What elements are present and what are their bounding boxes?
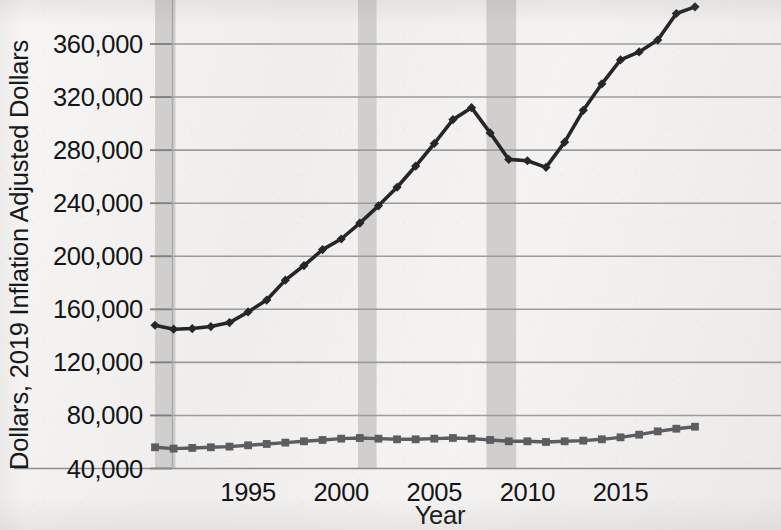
data-point-square — [579, 437, 587, 445]
data-point-diamond — [523, 156, 532, 165]
chart-canvas: 40,00080,000120,000160,000200,000240,000… — [0, 0, 781, 530]
y-tick-labels: 40,00080,000120,000160,000200,000240,000… — [53, 30, 143, 483]
data-point-square — [486, 436, 494, 444]
y-tick-label: 160,000 — [53, 295, 143, 323]
data-point-square — [598, 435, 606, 443]
y-tick-label: 240,000 — [53, 189, 143, 217]
series-upper-series — [150, 2, 699, 334]
data-point-square — [542, 438, 550, 446]
data-point-diamond — [206, 322, 215, 331]
y-tick-label: 360,000 — [53, 30, 143, 58]
data-point-square — [524, 437, 532, 445]
data-point-square — [393, 435, 401, 443]
data-point-square — [188, 444, 196, 452]
data-point-square — [691, 423, 699, 431]
data-point-square — [654, 427, 662, 435]
series-lower-series — [151, 423, 699, 453]
data-point-square — [356, 434, 364, 442]
x-tick-label: 2010 — [500, 478, 556, 506]
x-tick-label: 2015 — [593, 478, 649, 506]
y-axis-title: Dollars, 2019 Inflation Adjusted Dollars — [5, 40, 33, 470]
data-point-square — [319, 436, 327, 444]
data-point-square — [561, 437, 569, 445]
data-point-square — [430, 435, 438, 443]
data-point-diamond — [188, 324, 197, 333]
y-tick-label: 120,000 — [53, 348, 143, 376]
data-point-square — [449, 434, 457, 442]
y-tick-label: 200,000 — [53, 242, 143, 270]
data-point-square — [151, 443, 159, 451]
data-point-square — [281, 439, 289, 447]
recession-2001 — [358, 0, 377, 469]
data-series-layer — [150, 2, 699, 452]
data-point-square — [207, 443, 215, 451]
data-point-square — [337, 435, 345, 443]
x-axis-title: Year — [415, 501, 466, 529]
gridlines — [173, 44, 781, 415]
data-point-square — [617, 433, 625, 441]
x-tick-label: 1995 — [220, 478, 276, 506]
y-tick-label: 80,000 — [67, 401, 143, 429]
y-tick-label: 320,000 — [53, 83, 143, 111]
data-point-square — [170, 445, 178, 453]
line-chart: 40,00080,000120,000160,000200,000240,000… — [0, 0, 781, 530]
y-tick-label: 40,000 — [67, 455, 143, 483]
data-point-square — [263, 440, 271, 448]
data-point-diamond — [690, 2, 699, 11]
data-point-square — [300, 437, 308, 445]
recession-2007-2009 — [486, 0, 516, 469]
data-point-square — [375, 435, 383, 443]
series-line — [155, 427, 695, 449]
data-point-square — [226, 443, 234, 451]
data-point-square — [244, 441, 252, 449]
data-point-square — [635, 431, 643, 439]
y-tick-label: 280,000 — [53, 136, 143, 164]
data-point-square — [672, 425, 680, 433]
data-point-square — [505, 437, 513, 445]
data-point-square — [468, 435, 476, 443]
data-point-square — [412, 435, 420, 443]
series-line — [155, 7, 695, 329]
recession-bands — [155, 0, 516, 469]
x-tick-label: 2000 — [313, 478, 369, 506]
